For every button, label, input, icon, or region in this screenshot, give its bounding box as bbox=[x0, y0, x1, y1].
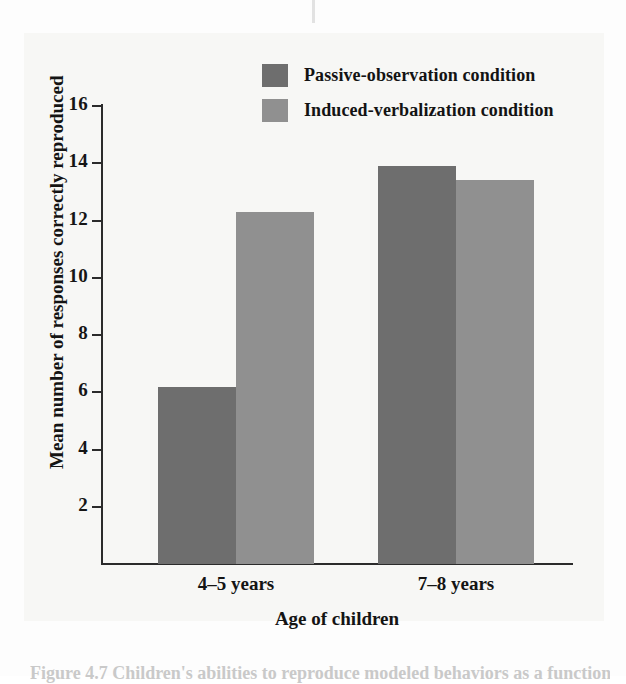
legend-item-passive: Passive-observation condition bbox=[262, 60, 554, 90]
figure-caption: Figure 4.7 Children's abilities to repro… bbox=[30, 663, 610, 684]
y-axis-tick bbox=[92, 277, 101, 279]
legend-label-passive: Passive-observation condition bbox=[304, 65, 535, 86]
legend-swatch-passive-icon bbox=[262, 64, 288, 87]
bar bbox=[378, 166, 456, 564]
y-axis-title: Mean number of responses correctly repro… bbox=[46, 89, 68, 469]
y-axis-tick bbox=[92, 506, 101, 508]
x-axis-category-label: 7–8 years bbox=[376, 573, 536, 595]
x-axis-title: Age of children bbox=[101, 608, 573, 630]
y-axis-tick-label: 2 bbox=[44, 494, 88, 516]
bar bbox=[158, 387, 236, 564]
y-axis-tick bbox=[92, 162, 101, 164]
y-axis-tick bbox=[92, 391, 101, 393]
y-axis-tick bbox=[92, 220, 101, 222]
bar-group-container bbox=[101, 106, 573, 564]
y-axis-tick bbox=[92, 334, 101, 336]
bar bbox=[236, 212, 314, 564]
bar bbox=[456, 180, 534, 564]
y-axis-tick bbox=[92, 105, 101, 107]
x-axis-category-label: 4–5 years bbox=[156, 573, 316, 595]
y-axis-tick bbox=[92, 449, 101, 451]
